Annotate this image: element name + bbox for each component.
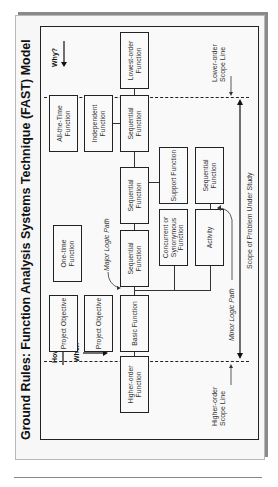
connector [149,182,159,183]
sequential-function-box-3: Sequential Function [120,95,149,152]
connector [134,152,135,167]
connector [210,204,211,209]
lower-order-scope-line-label: Lower-order Scope Line [211,32,227,82]
minor-logic-path-pointer-icon [218,205,234,280]
connector [113,123,120,124]
connector [134,224,135,230]
sequential-function-minor-box: Sequential Function [195,147,224,204]
independent-function-box: Independent Function [84,95,113,152]
why-label: Why? [51,48,59,67]
sequential-function-box-1: Sequential Function [120,230,149,287]
connector [134,290,211,291]
connector [134,89,135,95]
project-objective-box-1: Project Objective [49,295,78,352]
why-arrow-icon [61,37,67,67]
scope-of-problem-label: Scope of Problem Under Study [246,173,254,270]
page-rule [14,477,262,478]
lower-scope-pointer-icon [228,74,234,96]
all-the-time-function-box: All-the-Time Function [49,95,78,152]
connector [210,266,211,291]
connector [134,287,135,295]
diagram-title: Ground Rules: Function Analysis Systems … [19,39,33,440]
major-logic-path-pointer-icon [106,270,122,292]
sequential-function-box-2: Sequential Function [120,167,149,224]
concurrent-function-box: Concurrent or Synonymous Function [159,209,188,266]
basic-function-box: Basic Function [120,295,149,352]
higher-scope-pointer-icon [228,363,234,385]
lowest-order-function-box: Lowest-order Function [120,32,149,89]
fast-diagram-stage: Ground Rules: Function Analysis Systems … [0,0,278,487]
major-logic-path-label: Major Logic Path [103,218,111,271]
connector [134,352,135,356]
higher-order-function-box: Higher-order Function [120,356,149,413]
connector [174,266,175,291]
one-time-function-box: One-time Function [53,225,82,282]
support-function-box: Support Function [159,147,188,204]
higher-order-scope-line-label: Higher-order Scope Line [211,376,227,426]
project-objective-box-2: Project Objective [84,295,113,352]
scope-double-arrow-icon [236,99,244,359]
minor-logic-path-label: Minor Logic Path [228,288,236,341]
